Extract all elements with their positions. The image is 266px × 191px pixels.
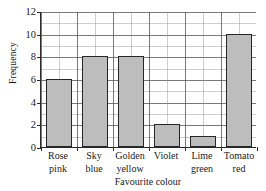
x-tick-label-line2: red [218,163,260,176]
y-tick-label: 6 [16,75,36,85]
x-tick-label-line1: Violet [147,150,185,163]
x-tick-label-lime-green: Lime green [183,150,221,175]
x-tick-label-tomato-red: Tomato red [218,150,260,175]
y-tick-label: 2 [16,120,36,130]
bar-violet [154,124,180,147]
x-tick-label-line2: blue [75,163,113,176]
x-tick-label-line2: yellow [110,163,150,176]
bar-lime-green [190,136,216,147]
x-tick-label-line1: Sky [75,150,113,163]
x-tick-label-line1: Rose [39,150,77,163]
y-tick-label: 4 [16,98,36,108]
x-tick-label-violet: Violet [147,150,185,163]
y-tick-label: 12 [16,7,36,17]
bar-golden-yellow [118,56,144,147]
x-tick-label-line2: pink [39,163,77,176]
x-tick-label-line2: green [183,163,221,176]
x-tick-label-sky-blue: Sky blue [75,150,113,175]
y-axis-tick-labels: 0 2 4 6 8 10 12 [14,0,36,191]
x-tick-label-line1: Tomato [218,150,260,163]
x-axis-tick-labels: Rose pink Sky blue Golden yellow Violet … [40,150,256,178]
x-axis-title: Favourite colour [40,176,256,187]
x-tick-label-golden-yellow: Golden yellow [110,150,150,175]
bars-layer [41,12,256,147]
y-tick-label: 10 [16,30,36,40]
x-tick-label-line1: Lime [183,150,221,163]
bar-rose-pink [46,79,72,147]
bar-tomato-red [226,34,252,147]
bar-sky-blue [82,56,108,147]
plot-area [40,12,256,148]
bar-chart: Frequency 0 2 4 6 8 10 12 [0,0,266,191]
y-tick-label: 0 [16,143,36,153]
x-tick-label-rose-pink: Rose pink [39,150,77,175]
x-tick-label-line1: Golden [110,150,150,163]
y-tick-label: 8 [16,52,36,62]
